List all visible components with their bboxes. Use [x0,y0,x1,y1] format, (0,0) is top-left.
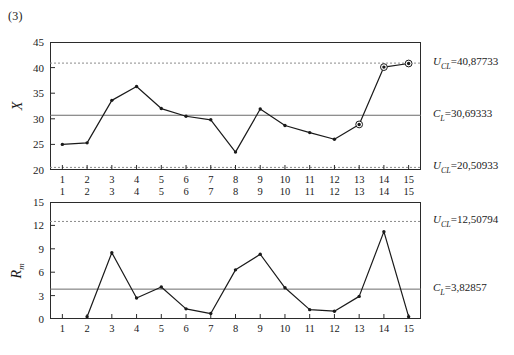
data-point-marker [357,295,360,298]
x-tick-label: 15 [397,174,421,185]
data-point-marker [135,296,138,299]
x-tick-label: 7 [199,323,223,334]
individuals-chart-lower-control-limit-label: UCL=20,50933 [433,160,498,175]
x-tick-label: 5 [149,323,173,334]
x-tick-label: 12 [322,174,346,185]
x-tick-label: 1 [50,174,74,185]
x-tick-label: 9 [248,186,272,197]
x-tick-label: 14 [372,186,396,197]
x-tick-label: 10 [273,186,297,197]
x-tick-label: 12 [322,323,346,334]
data-point-marker [259,107,262,110]
x-tick-label: 9 [248,174,272,185]
data-point-marker [234,268,237,271]
individuals-chart-center-line-label: CL=30,69333 [433,108,492,123]
x-tick-label: 9 [248,323,272,334]
x-tick-label: 14 [372,174,396,185]
x-tick-label: 5 [149,174,173,185]
x-tick-label: 14 [372,323,396,334]
data-point-marker [234,150,237,153]
x-tick-label: 4 [125,174,149,185]
data-point-marker [308,131,311,134]
x-tick-label: 8 [224,186,248,197]
x-tick-label: 3 [100,174,124,185]
y-tick-label: 3 [18,290,44,302]
x-tick-label: 3 [100,186,124,197]
x-tick-label: 2 [75,174,99,185]
y-tick-label: 30 [18,113,44,125]
y-tick-label: 15 [18,196,44,208]
data-point-marker [160,107,163,110]
data-point-marker [382,65,385,68]
data-point-marker [209,118,212,121]
x-tick-label: 1 [50,323,74,334]
x-tick-label: 8 [224,174,248,185]
x-tick-label: 7 [199,186,223,197]
x-tick-label: 15 [397,323,421,334]
data-point-marker [209,312,212,315]
x-tick-label: 8 [224,323,248,334]
data-point-marker [357,123,360,126]
moving-range-chart-upper-control-limit-label: UCL=12,50794 [433,214,498,229]
individuals-chart-upper-control-limit-label: UCL=40,87733 [433,56,498,71]
x-tick-label: 11 [298,186,322,197]
y-tick-label: 9 [18,243,44,255]
x-tick-label: 6 [174,186,198,197]
y-tick-label: 12 [18,219,44,231]
data-point-marker [110,99,113,102]
x-tick-label: 7 [199,174,223,185]
x-tick-label: 13 [347,174,371,185]
data-point-marker [333,138,336,141]
x-tick-label: 6 [174,174,198,185]
figure-root: (3) 202530354045 123456789101112131415 U… [0,0,514,355]
data-point-marker [61,143,64,146]
data-point-marker [135,85,138,88]
x-tick-label: 4 [125,323,149,334]
individuals-chart-series-line [62,64,408,153]
y-tick-label: 35 [18,87,44,99]
data-point-marker [259,253,262,256]
data-point-marker [407,62,410,65]
data-point-marker [160,285,163,288]
data-point-marker [283,124,286,127]
moving-range-chart-panel: 03691215 1234567891011121314151234567891… [0,190,514,355]
x-tick-label: 2 [75,186,99,197]
data-point-marker [85,141,88,144]
x-tick-label: 11 [298,174,322,185]
moving-range-chart-series-line [87,232,409,317]
x-tick-label: 3 [100,323,124,334]
x-tick-label: 1 [50,186,74,197]
y-tick-label: 45 [18,36,44,48]
x-tick-label: 2 [75,323,99,334]
individuals-y-axis-title: X [10,102,26,111]
y-tick-label: 20 [18,164,44,176]
data-point-marker [407,315,410,318]
x-tick-label: 12 [322,186,346,197]
data-point-marker [333,310,336,313]
x-tick-label: 11 [298,323,322,334]
data-point-marker [184,115,187,118]
x-tick-label: 5 [149,186,173,197]
y-tick-label: 0 [18,313,44,325]
x-tick-label: 10 [273,323,297,334]
x-tick-label: 15 [397,186,421,197]
y-tick-label: 40 [18,62,44,74]
x-tick-label: 13 [347,186,371,197]
data-point-marker [85,315,88,318]
data-point-marker [382,230,385,233]
x-tick-label: 4 [125,186,149,197]
moving-range-y-axis-title: Rm [9,263,27,278]
x-tick-label: 13 [347,323,371,334]
data-point-marker [110,251,113,254]
moving-range-chart-center-line-label: CL=3,82857 [433,282,487,297]
data-point-marker [308,308,311,311]
data-point-marker [184,307,187,310]
x-tick-label: 10 [273,174,297,185]
data-point-marker [283,286,286,289]
individuals-chart-panel: 202530354045 123456789101112131415 UCL=4… [0,0,514,190]
y-tick-label: 25 [18,138,44,150]
x-tick-label: 6 [174,323,198,334]
